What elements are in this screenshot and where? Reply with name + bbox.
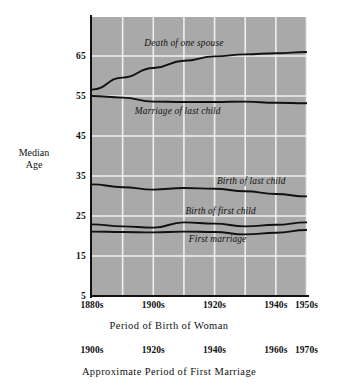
series-inline-label: Marriage of last child [134, 106, 221, 116]
y-axis-tick-label: 45 [76, 131, 86, 141]
x-axis-title-secondary: Approximate Period of First Marriage [0, 366, 338, 377]
series-line [92, 222, 307, 227]
x-axis-tick-label-primary: 1950s [295, 300, 318, 310]
x-axis-tick-label-primary: 1880s [80, 300, 103, 310]
x-axis-ticks-primary: 1880s1900s1920s1940s1950s [0, 300, 338, 314]
y-axis-tick-label: 25 [76, 211, 86, 221]
plot-svg: Death of one spouseMarriage of last chil… [92, 17, 307, 296]
series-inline-label: Death of one spouse [143, 38, 223, 48]
y-axis-line [90, 15, 92, 298]
series-line [92, 96, 307, 103]
y-axis-tick-label: 55 [76, 91, 86, 101]
x-axis-tick-label-secondary: 1970s [295, 345, 318, 355]
series-inline-label: Birth of last child [217, 176, 286, 186]
x-axis-ticks-secondary: 1900s1920s1940s1960s1970s [0, 345, 338, 359]
y-axis-title-line1: Median [4, 147, 64, 159]
y-axis-tick-label: 35 [76, 171, 86, 181]
x-axis-tick-label-secondary: 1920s [142, 345, 165, 355]
series-line [92, 52, 307, 90]
x-axis-tick-label-primary: 1900s [142, 300, 165, 310]
y-axis-title-line2: Age [4, 159, 64, 171]
x-axis-line [90, 295, 309, 297]
x-axis-tick-label-secondary: 1900s [80, 345, 103, 355]
chart-figure: Death of one spouseMarriage of last chil… [0, 0, 338, 387]
y-axis-tick-label: 15 [76, 251, 86, 261]
x-axis-tick-label-secondary: 1940s [203, 345, 226, 355]
plot-area: Death of one spouseMarriage of last chil… [92, 17, 307, 296]
y-axis-tick-label: 65 [76, 51, 86, 61]
series-inline-label: Birth of first child [185, 206, 256, 216]
y-axis-title: Median Age [4, 147, 64, 171]
x-axis-tick-label-primary: 1920s [203, 300, 226, 310]
curve-labels: Death of one spouseMarriage of last chil… [134, 38, 286, 244]
series-line [92, 184, 307, 196]
x-axis-tick-label-primary: 1940s [264, 300, 287, 310]
x-axis-title-primary: Period of Birth of Woman [0, 320, 338, 331]
x-axis-tick-label-secondary: 1960s [264, 345, 287, 355]
series-inline-label: First marriage [188, 234, 247, 244]
